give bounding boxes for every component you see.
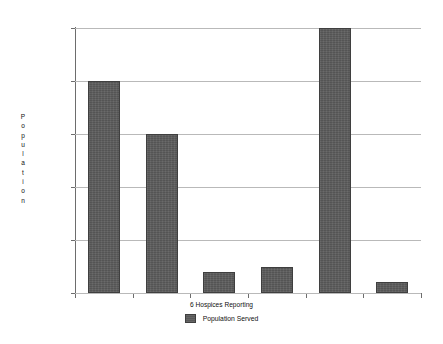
gridline (75, 240, 421, 241)
gridline (75, 134, 421, 135)
x-axis-tick-mark (190, 294, 191, 298)
y-axis-title-letter: o (16, 121, 30, 130)
chart-legend: Population Served (0, 314, 443, 323)
bar (376, 282, 408, 293)
x-axis-tick-mark (75, 294, 76, 298)
x-axis-tick-mark (363, 294, 364, 298)
y-axis-title-letter: l (16, 149, 30, 158)
plot-area (75, 28, 421, 293)
gridline (75, 81, 421, 82)
gridline (75, 187, 421, 188)
y-axis-title-letter: P (16, 112, 30, 121)
y-axis-title-letter: a (16, 158, 30, 167)
gridline (75, 28, 421, 29)
legend-label-population-served: Population Served (203, 314, 259, 323)
x-axis-tick-mark (248, 294, 249, 298)
x-axis-tick-mark (306, 294, 307, 298)
legend-swatch-population-served (185, 314, 196, 323)
x-axis-tick-mark (133, 294, 134, 298)
y-axis-title-letter: t (16, 168, 30, 177)
x-axis-label: 6 Hospices Reporting (0, 301, 443, 309)
x-axis-tick-mark (421, 294, 422, 298)
y-axis-title: P o p u l a t i o n (16, 112, 30, 205)
y-axis-title-letter: o (16, 186, 30, 195)
bar (88, 81, 120, 293)
bar (261, 267, 293, 294)
y-axis-title-letter: i (16, 177, 30, 186)
bar-chart: P o p u l a t i o n 0500,0001,000,0001,5… (0, 0, 443, 344)
y-axis-title-letter: p (16, 131, 30, 140)
bar (203, 272, 235, 293)
y-axis-title-letter: u (16, 140, 30, 149)
bar (319, 28, 351, 293)
bar (146, 134, 178, 293)
y-axis-title-letter: n (16, 196, 30, 205)
